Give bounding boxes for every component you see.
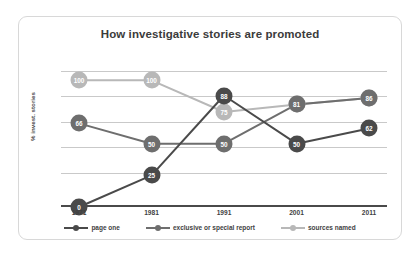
x-tick-label: 1981 [144, 209, 159, 216]
data-point-marker: 50 [143, 135, 160, 152]
legend-swatch [281, 223, 305, 232]
x-tick-label: 1991 [217, 209, 232, 216]
legend-item[interactable]: sources named [281, 223, 356, 232]
legend-item[interactable]: exclusive or special report [146, 223, 255, 232]
x-tick-label: 1971 [72, 209, 87, 216]
legend-label: exclusive or special report [173, 224, 255, 231]
legend-swatch [64, 223, 88, 232]
data-point-marker: 62 [361, 120, 378, 137]
chart-title: How investigative stories are promoted [19, 28, 401, 40]
series-lines [61, 55, 387, 207]
data-point-marker: 50 [288, 135, 305, 152]
legend-swatch [146, 223, 170, 232]
data-point-marker: 88 [216, 87, 233, 104]
plot-area: 1001007581866650508186025885062 [61, 55, 387, 207]
legend-label: page one [91, 224, 120, 231]
legend-label: sources named [308, 224, 356, 231]
data-point-marker: 81 [288, 96, 305, 113]
chart-legend: page oneexclusive or special reportsourc… [19, 223, 401, 232]
data-point-marker: 100 [71, 72, 88, 89]
data-point-marker: 66 [71, 115, 88, 132]
x-tick-label: 2011 [362, 209, 376, 216]
data-point-marker: 86 [361, 90, 378, 107]
data-point-marker: 50 [216, 135, 233, 152]
x-axis-ticks: 19711981199120012011 [61, 209, 387, 221]
legend-item[interactable]: page one [64, 223, 120, 232]
data-point-marker: 75 [216, 104, 233, 121]
data-point-marker: 25 [143, 167, 160, 184]
data-point-marker: 100 [143, 72, 160, 89]
y-axis-label: % invest. stories [29, 82, 36, 152]
x-tick-label: 2001 [289, 209, 304, 216]
chart-card: How investigative stories are promoted %… [18, 16, 402, 240]
